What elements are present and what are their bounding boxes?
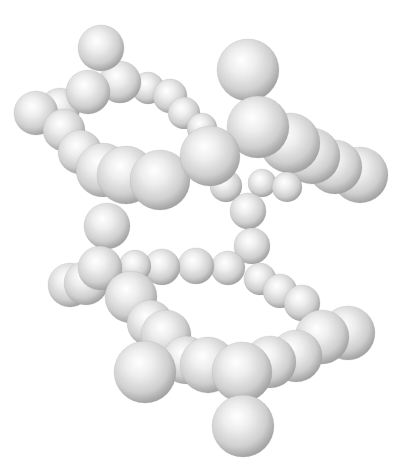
sphere-connector-right xyxy=(230,193,266,229)
sphere-model-canvas xyxy=(0,0,397,471)
sphere-upper-right-small xyxy=(248,169,276,197)
sphere-lower-front xyxy=(212,342,272,402)
sphere-lower-loop xyxy=(178,248,214,284)
sphere-upper-loop xyxy=(66,70,110,114)
sphere-lower-loop xyxy=(211,251,245,285)
sphere-connector-left xyxy=(84,203,130,249)
sphere-lower-front xyxy=(114,341,176,403)
sphere-upper-cap xyxy=(78,25,124,71)
sphere-upper-right-small xyxy=(272,172,302,202)
sphere-top-isolated xyxy=(217,39,279,101)
sphere-bottom-pendant xyxy=(212,395,274,457)
sphere-upper-front xyxy=(180,126,240,186)
background xyxy=(0,0,397,471)
